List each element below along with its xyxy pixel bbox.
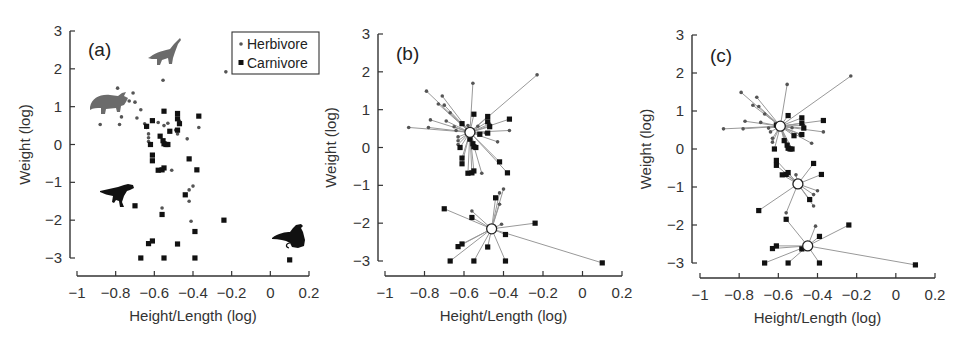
carnivore-point (533, 221, 538, 226)
x-tick-label: 0 (892, 286, 900, 303)
y-tick-label: 2 (54, 60, 62, 77)
herbivore-point (442, 103, 446, 107)
herbivore-point (166, 122, 170, 126)
x-tick-label: −0.8 (410, 284, 440, 301)
herbivore-point (427, 126, 431, 130)
carnivore-point (194, 167, 199, 172)
y-tick-label: −1 (667, 178, 684, 195)
herbivore-point (814, 224, 818, 228)
herbivore-point (743, 119, 747, 123)
carnivore-point (786, 170, 791, 175)
carnivore-point (196, 114, 201, 119)
x-axis-title: Height/Length (log) (440, 307, 568, 324)
carnivore-point (819, 172, 824, 177)
herbivore-point (456, 135, 460, 139)
y-tick-label: 0 (676, 140, 684, 157)
carnivore-point (817, 260, 822, 265)
herbivore-point (763, 112, 767, 116)
x-tick-label: −0.6 (764, 286, 794, 303)
carnivore-point (459, 161, 464, 166)
data-points (722, 74, 918, 267)
panel-label: (c) (710, 45, 732, 66)
herbivore-point (812, 204, 816, 208)
carnivore-point (772, 146, 777, 151)
herbivore-point (98, 123, 102, 127)
carnivore-point (455, 244, 460, 249)
legend: HerbivoreCarnivore (232, 32, 319, 74)
herbivore-point (156, 121, 160, 125)
cluster-link (808, 246, 916, 265)
centroid-marker (487, 224, 497, 234)
x-tick-label: −0.4 (178, 284, 208, 301)
x-tick-label: −0.2 (528, 284, 558, 301)
carnivore-point (459, 155, 464, 160)
carnivore-point (485, 119, 490, 124)
carnivore-point (175, 241, 180, 246)
carnivore-point (161, 109, 166, 114)
cluster-link (780, 84, 787, 126)
x-tick-label: −1 (376, 284, 393, 301)
x-tick-label: −0.2 (842, 286, 872, 303)
x-tick-label: −0.4 (803, 286, 833, 303)
carnivore-point (799, 115, 804, 120)
panel-label: (a) (88, 39, 111, 60)
y-tick-label: −1 (353, 176, 370, 193)
y-tick-label: 2 (676, 64, 684, 81)
carnivore-point (175, 116, 180, 121)
herbivore-point (741, 127, 745, 131)
carnivore-point (150, 158, 155, 163)
herbivore-point (535, 73, 539, 77)
carnivore-point (505, 170, 510, 175)
carnivore-point (774, 163, 779, 168)
herbivore-point (810, 142, 814, 146)
cluster-link (808, 225, 849, 246)
herbivore-point (816, 189, 820, 193)
herbivore-point (771, 137, 775, 141)
x-tick-label: 0.2 (925, 286, 946, 303)
herbivore-point (739, 91, 743, 95)
carnivore-point (817, 234, 822, 239)
bird-icon (272, 224, 305, 248)
y-tick-label: −1 (45, 173, 62, 190)
carnivore-point (503, 232, 508, 237)
x-tick-label: −0.8 (101, 284, 131, 301)
x-tick-label: −0.8 (724, 286, 754, 303)
y-axis-title: Weight (log) (637, 109, 654, 190)
tyrannosaur-icon (100, 184, 134, 207)
carnivore-point (503, 258, 508, 263)
centroid-marker (803, 241, 813, 251)
herbivore-point (162, 124, 166, 128)
carnivore-point (786, 260, 791, 265)
carnivore-point (784, 217, 789, 222)
carnivore-point (507, 117, 512, 122)
carnivore-point (789, 146, 794, 151)
carnivore-point (175, 111, 180, 116)
cluster-link (444, 209, 491, 229)
x-tick-label: −1 (68, 284, 85, 301)
carnivore-point (442, 206, 447, 211)
carnivore-point (821, 118, 826, 123)
brachiosaurus-icon (148, 38, 181, 65)
legend-herbivore-marker (239, 42, 243, 46)
carnivore-point (807, 197, 812, 202)
carnivore-point (150, 118, 155, 123)
carnivore-point (600, 260, 605, 265)
bird-tail-icon (286, 243, 290, 248)
herbivore-point (161, 78, 165, 82)
carnivore-point (177, 121, 182, 126)
carnivore-point (192, 255, 197, 260)
herbivore-point (480, 171, 484, 175)
herbivore-point (790, 126, 794, 130)
y-tick-label: 1 (676, 102, 684, 119)
herbivore-point (454, 129, 458, 133)
herbivore-point (440, 94, 444, 98)
y-tick-label: 0 (362, 139, 370, 156)
herbivore-point (784, 211, 788, 215)
herbivore-point (429, 118, 433, 122)
herbivore-point (498, 202, 502, 206)
herbivore-point (187, 188, 191, 192)
carnivore-point (497, 159, 502, 164)
herbivore-point (197, 126, 201, 130)
herbivore-point (794, 173, 798, 177)
herbivore-point (437, 102, 441, 106)
